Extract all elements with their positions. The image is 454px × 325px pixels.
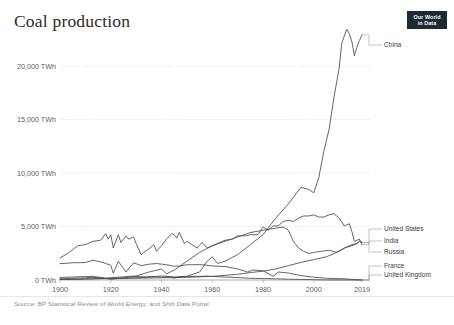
y-axis-tick-label: 20,000 TWh — [17, 62, 56, 71]
x-axis-tick-label: 2000 — [306, 285, 322, 294]
x-axis-tick-label: 1960 — [204, 285, 220, 294]
y-axis-tick-label: 15,000 TWh — [17, 115, 56, 124]
series-line-united-kingdom[interactable] — [60, 260, 362, 280]
y-axis-tick-label: 5,000 TWh — [21, 222, 56, 231]
coal-production-line-chart[interactable]: 20,000 TWh15,000 TWh10,000 TWh5,000 TWh0… — [0, 0, 454, 325]
y-axis-tick-label: 10,000 TWh — [17, 169, 56, 178]
gridlines — [60, 66, 370, 280]
source-note: Source: BP Statistical Review of World E… — [14, 300, 209, 307]
leader-line — [362, 275, 382, 280]
x-axis-tick-label: 1920 — [103, 285, 119, 294]
leader-line — [362, 242, 382, 252]
chart-page: Coal production Our World in Data 20,000… — [0, 0, 454, 325]
series-line-china[interactable] — [60, 29, 362, 279]
series-label-india[interactable]: India — [384, 237, 399, 244]
series-line-france[interactable] — [60, 276, 362, 280]
series-label-china[interactable]: China — [384, 41, 402, 48]
y-axis-labels: 20,000 TWh15,000 TWh10,000 TWh5,000 TWh0… — [17, 62, 56, 285]
series-label-united-states[interactable]: United States — [384, 225, 424, 232]
x-axis-tick-label: 1900 — [52, 285, 68, 294]
footer-divider — [0, 296, 454, 297]
x-axis-tickmarks — [60, 280, 362, 283]
series-labels[interactable]: ChinaUnited StatesIndiaRussiaFranceUnite… — [384, 41, 431, 279]
series-label-russia[interactable]: Russia — [384, 248, 404, 255]
y-axis-tick-label: 0 TWh — [35, 276, 56, 285]
series-label-leaders — [362, 35, 382, 280]
series-line-united-states[interactable] — [60, 214, 362, 258]
series-label-france[interactable]: France — [384, 262, 405, 269]
leader-line — [362, 35, 382, 45]
series-line-russia[interactable] — [60, 227, 362, 279]
series-label-united-kingdom[interactable]: United Kingdom — [384, 271, 431, 279]
leader-line — [362, 266, 382, 280]
x-axis-tick-label: 1980 — [255, 285, 271, 294]
x-axis-tick-label: 1940 — [154, 285, 170, 294]
series-line-india[interactable] — [60, 241, 362, 279]
x-axis-tick-label: 2019 — [354, 285, 370, 294]
data-series-lines[interactable] — [60, 29, 362, 280]
x-axis-labels: 1900192019401960198020002019 — [52, 285, 370, 294]
